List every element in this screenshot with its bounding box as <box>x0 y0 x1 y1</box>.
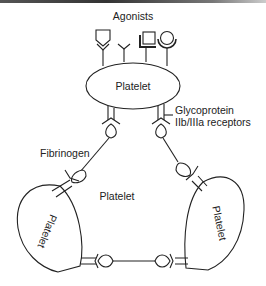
fibrinogen-node <box>98 255 113 267</box>
agonists-label: Agonists <box>113 10 153 22</box>
platelet-top-label: Platelet <box>115 80 150 92</box>
agonist-receptor-y <box>118 44 130 62</box>
gp-label-line1: Glycoprotein <box>175 104 234 116</box>
fibrinogen-node <box>156 124 167 138</box>
agonist-receptor-pentagon <box>96 30 110 66</box>
platelet-diagram: Agonists Platelet Glycoprotein IIb/IIIa … <box>0 0 266 286</box>
fibrinogen-node <box>106 124 117 138</box>
agonist-receptor-circle <box>158 32 176 67</box>
fibrinogen-node <box>176 163 191 176</box>
agonist-receptor-square <box>140 32 156 62</box>
gp-label-line2: IIb/IIIa receptors <box>175 116 251 128</box>
fibrinogen-node <box>155 255 170 267</box>
fibrinogen-label: Fibrinogen <box>40 147 90 159</box>
platelet-center-label: Platelet <box>99 190 134 202</box>
